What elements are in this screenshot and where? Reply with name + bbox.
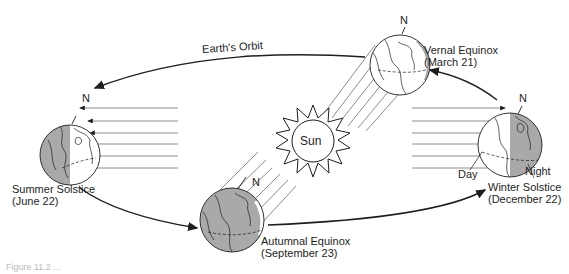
- globe-summer-solstice: [40, 116, 100, 185]
- summer-solstice-name: Summer Solstice: [12, 183, 95, 195]
- vernal-equinox-date: (March 21): [424, 56, 498, 68]
- winter-solstice-label: Winter Solstice (December 22): [488, 181, 561, 205]
- autumnal-equinox-name: Autumnal Equinox: [261, 235, 350, 247]
- summer-solstice-date: (June 22): [12, 195, 95, 207]
- north-label-winter: N: [519, 92, 527, 104]
- sun-label: Sun: [300, 134, 321, 148]
- north-label-summer: N: [82, 92, 90, 104]
- winter-solstice-date: (December 22): [488, 193, 561, 205]
- vernal-equinox-name: Vernal Equinox: [424, 44, 498, 56]
- summer-solstice-label: Summer Solstice (June 22): [12, 183, 95, 207]
- north-label-vernal: N: [400, 14, 408, 26]
- figure-caption: Figure 11.2 ...: [6, 262, 61, 272]
- vernal-equinox-label: Vernal Equinox (March 21): [424, 44, 498, 68]
- day-label: Day: [458, 168, 478, 180]
- night-label: Night: [525, 165, 551, 177]
- winter-solstice-name: Winter Solstice: [488, 181, 561, 193]
- north-label-autumnal: N: [252, 176, 260, 188]
- autumnal-equinox-label: Autumnal Equinox (September 23): [261, 235, 350, 259]
- globe-autumnal-equinox: [200, 177, 265, 252]
- autumnal-equinox-date: (September 23): [261, 247, 350, 259]
